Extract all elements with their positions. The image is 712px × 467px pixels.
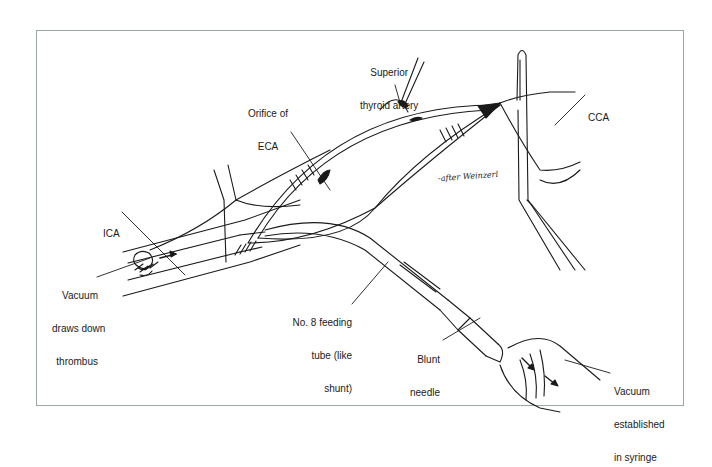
label-line: established <box>614 419 665 430</box>
label-line: ECA <box>248 141 288 152</box>
label-line: Orifice of <box>248 108 288 119</box>
label-line: needle <box>400 387 440 398</box>
label-line: No. 8 feeding <box>280 317 352 328</box>
label-line: thrombus <box>52 356 98 367</box>
label-line: thyroid artery <box>360 100 418 111</box>
label-line: shunt) <box>280 383 352 394</box>
label-superior-thyroid-artery: Superior thyroid artery <box>360 45 418 122</box>
label-line: Superior <box>360 67 418 78</box>
label-line: Vacuum <box>52 290 98 301</box>
label-line: CCA <box>588 112 609 123</box>
blunt-needle <box>440 300 503 362</box>
label-line: draws down <box>52 323 98 334</box>
cca-vessel <box>500 92 580 183</box>
eca-vessel <box>150 150 330 262</box>
label-orifice-eca: Orifice of ECA <box>248 86 288 163</box>
vascular-clamp <box>517 51 585 271</box>
syringe <box>500 338 600 412</box>
label-ica: ICA <box>103 206 120 250</box>
label-cca: CCA <box>588 90 609 134</box>
label-vacuum-draws-thrombus: Vacuum draws down thrombus <box>52 268 98 378</box>
label-blunt-needle: Blunt needle <box>400 332 440 409</box>
thrombus <box>134 251 153 275</box>
label-line: Blunt <box>400 354 440 365</box>
label-line: Vacuum <box>614 386 665 397</box>
vacuum-arrow-icon <box>522 358 558 386</box>
label-feeding-tube: No. 8 feeding tube (like shunt) <box>280 295 352 405</box>
label-line: tube (like <box>280 350 352 361</box>
label-line: ICA <box>103 228 120 239</box>
label-line: in syringe <box>614 452 665 463</box>
label-vacuum-syringe: Vacuum established in syringe <box>614 364 665 467</box>
